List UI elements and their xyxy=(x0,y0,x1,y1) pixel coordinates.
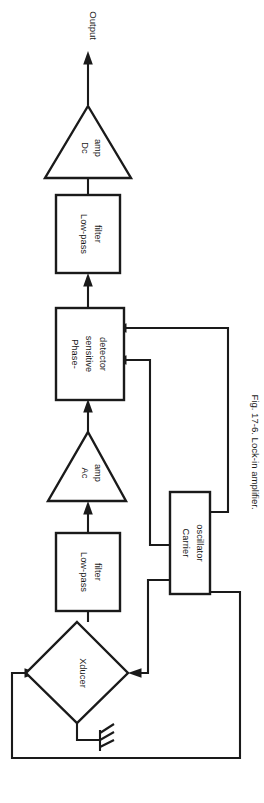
lock-in-amplifier-block-diagram: Dc amp Low-pass filter Phase- sensitive … xyxy=(0,0,264,803)
low-pass-filter-1-label-line1: Low-pass xyxy=(79,552,89,592)
wire-lpf1-to-acamp xyxy=(83,501,93,533)
low-pass-filter-1-label-line2: filter xyxy=(93,563,103,581)
block-carrier-oscillator[interactable]: Carrier oscillator xyxy=(170,492,210,594)
xducer-label: Xducer xyxy=(78,658,88,688)
wire-dcamp-to-output xyxy=(83,51,93,105)
block-low-pass-filter-2[interactable]: Low-pass filter xyxy=(56,195,120,273)
block-ac-amp[interactable]: Ac amp xyxy=(48,432,126,501)
carrier-oscillator-label-line1: Carrier xyxy=(181,529,191,558)
block-low-pass-filter-1[interactable]: Low-pass filter xyxy=(56,533,120,611)
low-pass-filter-2-label-line1: Low-pass xyxy=(79,214,89,254)
block-xducer[interactable]: Xducer xyxy=(26,622,128,723)
output-label: Output xyxy=(88,11,99,40)
psd-label-line2: sensitive xyxy=(84,336,94,373)
carrier-oscillator-label-line2: oscillator xyxy=(195,524,205,561)
block-dc-amp[interactable]: Dc amp xyxy=(45,106,131,178)
ac-amp-label-line1: Ac xyxy=(80,468,90,479)
wire-oscillator-to-psd-carrier xyxy=(113,323,228,512)
figure-container: Dc amp Low-pass filter Phase- sensitive … xyxy=(0,0,264,803)
psd-label-line3: detector xyxy=(98,337,108,371)
figure-caption: Fig. 17-6. Lock-in amplifier. xyxy=(250,394,261,509)
wire-xducer-to-ground xyxy=(77,723,100,740)
psd-label-line1: Phase- xyxy=(70,339,80,369)
ac-amp-label-line2: amp xyxy=(93,464,103,482)
wire-acamp-to-psd xyxy=(83,399,93,432)
wire-oscillator-to-xducer xyxy=(128,580,170,678)
block-phase-sensitive-detector[interactable]: Phase- sensitive detector xyxy=(56,308,124,400)
dc-amp-label-line1: Dc xyxy=(80,142,90,154)
low-pass-filter-2-label-line2: filter xyxy=(93,225,103,243)
dc-amp-label-line2: amp xyxy=(93,139,103,157)
ground-symbol xyxy=(100,724,114,751)
